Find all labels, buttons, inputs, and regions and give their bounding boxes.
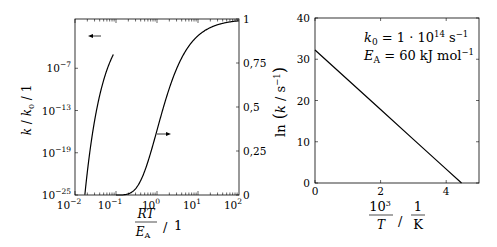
svg-text:0: 0 [243,189,250,201]
svg-text:EA = 60 kJ mol−1: EA = 60 kJ mol−1 [363,47,474,65]
svg-text:30: 30 [297,53,310,65]
arrow-left-icon [88,34,101,38]
right-chart: 024010203040 k0 = 1 · 1014 s−1 EA = 60 k… [270,12,479,232]
svg-text:k0 = 1 · 1014 s−1: k0 = 1 · 1014 s−1 [364,29,468,47]
svg-text:10−19: 10−19 [42,145,71,159]
curve-log-left-axis [85,54,114,194]
svg-text:1: 1 [243,13,250,25]
svg-text:0,25: 0,25 [243,145,266,157]
curve-linear-right-axis [116,21,239,195]
svg-text:0,75: 0,75 [243,57,266,69]
svg-text:20: 20 [297,95,310,107]
ln-k-line [315,50,462,183]
figure: 10−210−1100101102 10−2510−1910−1310−7 00… [0,0,497,247]
left-x-axis-label: RT EA / 1 [135,207,183,240]
svg-text:10: 10 [297,136,310,148]
svg-text:103: 103 [369,199,391,214]
arrow-right-icon [157,132,171,136]
left-right-y-tick-labels: 00,250,50,751 [236,13,266,201]
svg-text:10−2: 10−2 [57,197,82,211]
left-x-minor-ticks [75,19,237,195]
svg-text:10−1: 10−1 [98,197,122,211]
svg-text:/: / [163,220,168,235]
svg-text:40: 40 [297,12,310,24]
svg-text:10−13: 10−13 [42,103,71,117]
left-plot-frame [75,19,239,195]
left-y-tick-labels: 10−2510−1910−1310−7 [42,60,78,201]
svg-text:RT: RT [137,207,156,221]
svg-text:102: 102 [224,197,242,211]
svg-text:1: 1 [174,218,182,233]
svg-text:K: K [413,217,423,232]
svg-text:4: 4 [443,185,450,197]
left-chart: 10−210−1100101102 10−2510−1910−1310−7 00… [20,13,266,240]
svg-text:1: 1 [414,199,422,214]
svg-text:0: 0 [303,177,310,189]
svg-text:2: 2 [377,185,384,197]
left-y-axis-label: k / k0 / 1 [20,85,36,136]
svg-text:/: / [398,214,403,229]
svg-text:EA: EA [135,225,151,240]
right-x-axis-label: 103 T / 1 K [369,199,425,232]
svg-text:0,5: 0,5 [243,101,260,113]
svg-text:101: 101 [183,197,201,211]
parameters-annotation: k0 = 1 · 1014 s−1 EA = 60 kJ mol−1 [363,29,474,65]
svg-text:T: T [377,218,386,232]
right-y-axis-label: ln (k / s−1) [270,67,289,137]
svg-text:0: 0 [312,185,319,197]
svg-text:10−7: 10−7 [47,60,72,74]
